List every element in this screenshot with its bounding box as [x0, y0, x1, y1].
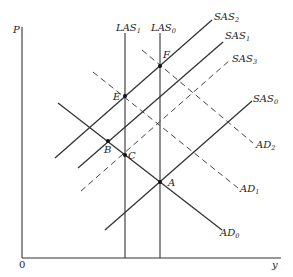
output-axis-label: y: [271, 259, 278, 270]
sas1-label: SAS1: [225, 30, 250, 43]
las0-label: LAS0: [150, 22, 176, 35]
sas1-line: [78, 42, 223, 168]
ad2-label: AD2: [255, 139, 275, 152]
as-ad-diagram: P y 0 LAS1 LAS0 SAS2 SAS1 SAS3 SAS0 AD2 …: [0, 0, 293, 277]
point-f-label: F: [162, 49, 171, 60]
point-e-dot: [123, 94, 127, 98]
point-b-label: B: [103, 144, 111, 155]
sas2-label: SAS2: [214, 11, 239, 24]
ad1-line: [93, 72, 238, 188]
point-a-dot: [158, 180, 162, 184]
point-b-dot: [106, 139, 110, 143]
price-axis-label: P: [12, 24, 20, 35]
sas0-label: SAS0: [253, 93, 278, 106]
diagram-canvas: P y 0 LAS1 LAS0 SAS2 SAS1 SAS3 SAS0 AD2 …: [0, 0, 293, 277]
ad0-line: [58, 103, 222, 230]
sas0-line: [105, 101, 252, 230]
point-c-label: C: [128, 150, 136, 161]
point-e-label: E: [112, 91, 121, 102]
ad0-label: AD0: [219, 227, 239, 240]
point-a-label: A: [167, 177, 175, 188]
sas3-label: SAS3: [232, 53, 257, 66]
ad1-label: AD1: [239, 183, 259, 196]
origin-label: 0: [19, 259, 25, 270]
point-f-dot: [158, 64, 162, 68]
las1-label: LAS1: [115, 22, 141, 35]
point-c-dot: [123, 153, 127, 157]
